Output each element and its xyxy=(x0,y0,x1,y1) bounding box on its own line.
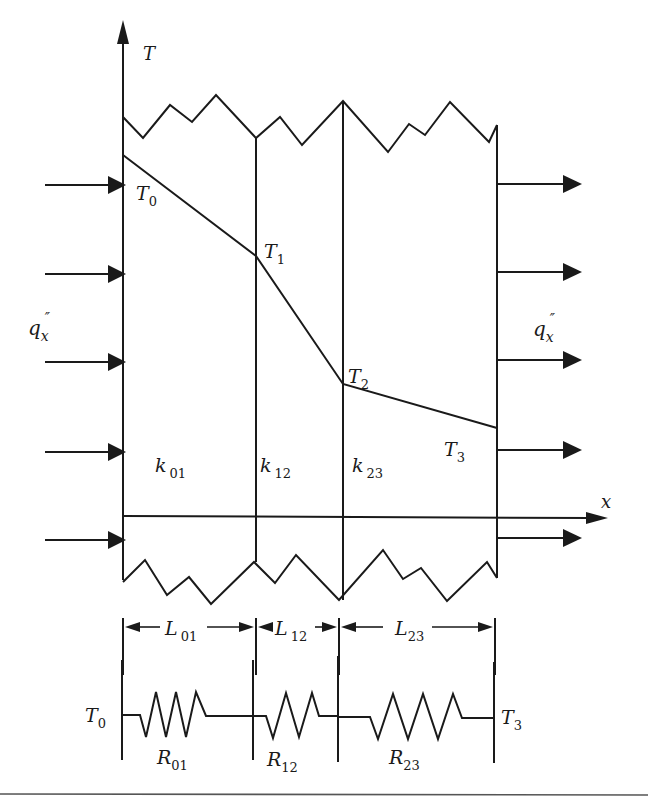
x-axis-label: x xyxy=(601,491,611,512)
axis-arrow-up-icon xyxy=(117,20,129,44)
inlet-arrow-icon xyxy=(45,265,126,283)
top-break-line xyxy=(123,95,497,152)
dimension-arrow-right-icon xyxy=(322,622,337,632)
composite-wall-diagram: T x T0 T1 T2 T3 k01 k12 k23 qx″ xyxy=(0,0,648,805)
dimension-arrow-right-icon xyxy=(239,622,254,632)
inlet-arrow-icon xyxy=(45,176,126,194)
temp-label-t1: T1 xyxy=(264,240,285,267)
dimension-arrow-right-icon xyxy=(478,622,493,632)
resistance-label-r12: R12 xyxy=(266,748,298,775)
inlet-heat-flux-label: qx″ xyxy=(28,310,51,344)
inlet-arrow-icon xyxy=(45,443,126,461)
dimension-arrow-left-icon xyxy=(125,622,140,632)
resistance-label-r01: R01 xyxy=(156,746,188,773)
thickness-label-l01: L01 xyxy=(164,617,197,644)
temperature-axis: T xyxy=(117,20,157,580)
circuit-label-t3: T3 xyxy=(501,706,522,733)
dimension-arrow-left-icon xyxy=(341,622,356,632)
conductivity-label-k12: k12 xyxy=(260,454,291,481)
outlet-arrow-icon xyxy=(497,351,582,369)
temp-label-t0: T0 xyxy=(136,182,157,209)
thermal-resistance-circuit: T0 T3 R01 R12 R23 xyxy=(85,656,522,775)
inlet-arrow-icon xyxy=(45,531,126,549)
outlet-arrow-icon xyxy=(497,263,582,281)
resistor-r23-icon xyxy=(338,694,494,739)
inlet-heat-flux-arrows xyxy=(45,176,126,549)
inlet-arrow-icon xyxy=(45,353,126,371)
temp-label-t3: T3 xyxy=(444,438,465,465)
conductivity-label-k01: k01 xyxy=(155,454,186,481)
t-axis-label: T xyxy=(143,43,157,64)
layer-interfaces xyxy=(256,101,497,600)
outlet-arrow-icon xyxy=(497,175,582,193)
x-axis: x xyxy=(123,491,611,524)
resistor-r01-icon xyxy=(122,692,253,737)
dimension-arrow-left-icon xyxy=(258,622,273,632)
thickness-dimensions: L01 L12 L23 xyxy=(123,617,495,675)
bottom-break-line xyxy=(123,550,497,604)
thickness-label-l12: L12 xyxy=(274,617,307,644)
temperature-profile-line xyxy=(123,155,497,428)
outlet-arrow-icon xyxy=(497,441,582,459)
conductivity-label-k23: k23 xyxy=(352,454,383,481)
resistor-r12-icon xyxy=(253,693,338,738)
circuit-label-t0: T0 xyxy=(85,704,106,731)
thickness-label-l23: L23 xyxy=(394,617,424,644)
axis-arrow-right-icon xyxy=(586,512,608,524)
bottom-divider xyxy=(0,794,648,795)
outlet-heat-flux-label: qx″ xyxy=(533,311,556,345)
outlet-heat-flux-arrows xyxy=(497,175,582,547)
resistance-label-r23: R23 xyxy=(388,746,420,773)
outlet-arrow-icon xyxy=(497,529,582,547)
